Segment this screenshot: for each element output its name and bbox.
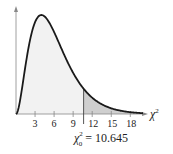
critical-value-label: χ20 = 10.645 bbox=[73, 130, 128, 148]
x-tick-label: 3 bbox=[33, 118, 38, 129]
chi-square-chart: 369121518 χ2 χ20 = 10.645 bbox=[0, 0, 173, 154]
tail-region bbox=[84, 89, 143, 114]
x-tick-label: 12 bbox=[88, 118, 98, 129]
x-tick-label: 6 bbox=[52, 118, 57, 129]
x-tick-label: 15 bbox=[107, 118, 117, 129]
y-axis-arrow-icon bbox=[14, 6, 18, 12]
x-axis-label: χ2 bbox=[149, 107, 159, 121]
x-tick-label: 9 bbox=[71, 118, 76, 129]
x-tick-label: 18 bbox=[126, 118, 136, 129]
